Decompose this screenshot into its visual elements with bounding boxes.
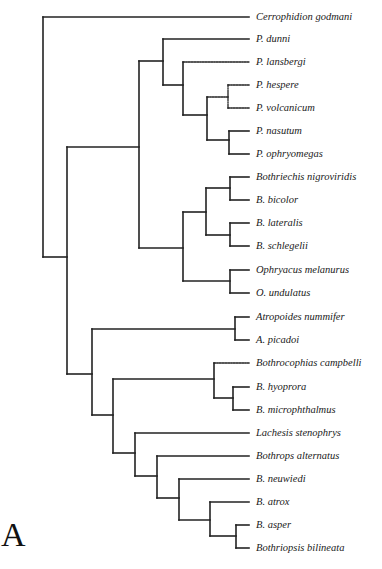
taxon-label: P. volcanicum bbox=[256, 102, 315, 114]
taxon-label: B. neuwiedi bbox=[256, 473, 306, 485]
panel-label: A bbox=[1, 518, 26, 552]
taxon-label: P. dunni bbox=[256, 33, 290, 45]
taxon-label: P. ophryomegas bbox=[256, 148, 323, 160]
tree-branches bbox=[43, 17, 249, 548]
taxon-label: P. nasutum bbox=[256, 125, 302, 137]
taxon-label: B. atrox bbox=[256, 496, 289, 508]
taxon-label: Cerrophidion godmani bbox=[256, 11, 352, 23]
taxon-label: Atropoides nummifer bbox=[256, 311, 345, 323]
taxon-label: Bothrocophias campbelli bbox=[256, 357, 361, 369]
taxon-label: A. picadoi bbox=[256, 334, 299, 346]
taxon-label: Ophryacus melanurus bbox=[256, 264, 349, 276]
taxon-label: Bothrops alternatus bbox=[256, 450, 339, 462]
taxon-label: Bothriopsis bilineata bbox=[256, 542, 344, 554]
taxon-label: B. bicolor bbox=[256, 194, 298, 206]
taxon-label: O. undulatus bbox=[256, 287, 310, 299]
taxon-label: B. schlegelii bbox=[256, 240, 308, 252]
taxon-label: B. microphthalmus bbox=[256, 404, 336, 416]
taxon-label: P. lansbergi bbox=[256, 56, 306, 68]
taxon-label: P. hespere bbox=[256, 79, 299, 91]
phylogenetic-tree bbox=[0, 0, 382, 569]
taxon-label: B. lateralis bbox=[256, 217, 303, 229]
taxon-label: Bothriechis nigroviridis bbox=[256, 171, 356, 183]
taxon-label: B. hyoprora bbox=[256, 381, 306, 393]
taxon-label: Lachesis stenophrys bbox=[256, 427, 341, 439]
taxon-label: B. asper bbox=[256, 519, 291, 531]
